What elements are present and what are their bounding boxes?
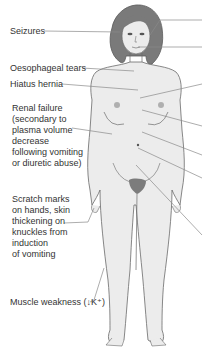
label-renal-failure: Renal failure (secondary to plasma volum… [12,103,83,169]
label-scratch-marks: Scratch marks on hands, skin thickening … [12,194,70,260]
label-seizures: Seizures [10,26,45,37]
bulimia-signs-diagram: Seizures Oesophageal tears Hiatus hernia… [0,0,204,358]
label-hiatus-hernia: Hiatus hernia [10,79,63,90]
label-oesophageal-tears: Oesophageal tears [10,63,86,74]
label-muscle-weakness: Muscle weakness (↓K⁺) [10,297,105,308]
